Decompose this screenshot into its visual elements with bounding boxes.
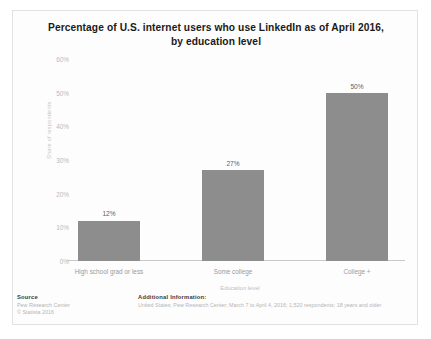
additional-information-line-1: United States; Pew Research Center; Marc… [138,302,418,309]
y-tick-30: 30% [56,157,69,164]
bar-group-high-school[interactable]: 12% High school grad or less [78,59,140,261]
chart-title-line-1: Percentage of U.S. internet users who us… [27,21,405,35]
bar-value-college-plus: 50% [326,83,388,90]
y-tick-20: 20% [56,190,69,197]
y-axis-title: Share of respondents [46,102,52,160]
x-tick-some-college: Some college [178,268,288,275]
x-tick-high-school: High school grad or less [54,268,164,275]
x-axis-title: Education level [75,285,405,291]
bar-value-some-college: 27% [202,160,264,167]
additional-information-block: Additional Information: United States; P… [138,294,418,309]
bar-some-college[interactable] [202,170,264,261]
chart-footer: Source Pew Research Center © Statista 20… [17,294,417,324]
bar-value-high-school: 12% [78,210,140,217]
source-heading: Source [17,294,127,300]
source-line-2: © Statista 2016 [17,309,127,316]
additional-information-heading: Additional Information: [138,294,418,300]
x-tick-college-plus: College + [302,268,412,275]
bar-college-plus[interactable] [326,93,388,261]
y-tick-50: 50% [56,89,69,96]
chart-title: Percentage of U.S. internet users who us… [27,21,405,49]
y-tick-60: 60% [56,56,69,63]
bar-group-some-college[interactable]: 27% Some college [202,59,264,261]
y-tick-40: 40% [56,123,69,130]
chart-title-line-2: by education level [27,35,405,49]
bar-group-college-plus[interactable]: 50% College + [326,59,388,261]
bar-high-school[interactable] [78,221,140,261]
y-tick-10: 10% [56,224,69,231]
plot-area: 0% 10% 20% 30% 40% 50% 60% 12% High scho… [75,59,405,261]
y-tick-0: 0% [60,258,69,265]
source-block: Source Pew Research Center © Statista 20… [17,294,127,316]
source-line-1: Pew Research Center [17,302,127,309]
chart-card: Percentage of U.S. internet users who us… [12,10,418,325]
